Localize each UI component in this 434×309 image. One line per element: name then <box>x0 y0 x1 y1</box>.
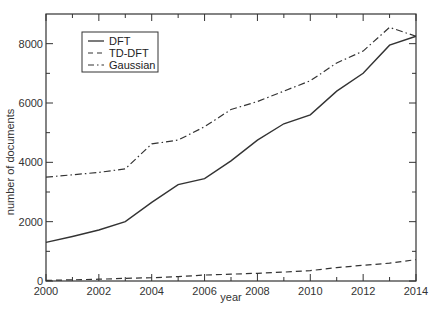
y-axis: 02000400060008000 <box>19 38 416 287</box>
y-axis-title: number of documents <box>4 108 16 215</box>
legend-label-td-dft: TD-DFT <box>109 47 149 59</box>
y-tick-label: 0 <box>37 275 43 287</box>
x-tick-label: 2002 <box>87 285 111 297</box>
y-tick-label: 4000 <box>19 156 43 168</box>
x-tick-label: 2008 <box>245 285 269 297</box>
line-chart: 20002002200420062008201020122014 0200040… <box>0 0 434 309</box>
x-tick-label: 2004 <box>139 285 163 297</box>
legend-label-dft: DFT <box>109 35 131 47</box>
y-tick-label: 2000 <box>19 216 43 228</box>
x-tick-label: 2012 <box>351 285 375 297</box>
y-tick-label: 6000 <box>19 97 43 109</box>
y-tick-label: 8000 <box>19 38 43 50</box>
legend-label-gaussian: Gaussian <box>109 59 155 71</box>
x-tick-label: 2014 <box>404 285 428 297</box>
x-tick-label: 2010 <box>298 285 322 297</box>
x-axis-title: year <box>220 291 242 303</box>
legend: DFT TD-DFT Gaussian <box>82 32 158 72</box>
x-tick-label: 2006 <box>192 285 216 297</box>
